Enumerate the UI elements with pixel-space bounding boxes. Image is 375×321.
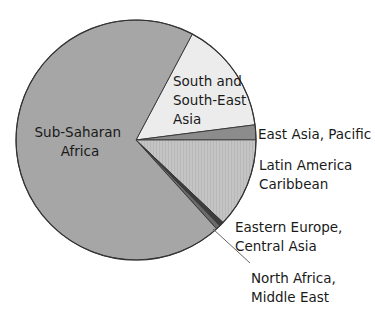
label-latin-america-caribbean: Latin America Caribbean (259, 157, 357, 192)
label-east-asia-pacific: East Asia, Pacific (258, 126, 371, 142)
label-eastern-europe-central-asia: Eastern Europe, Central Asia (235, 219, 347, 254)
label-north-africa-middle-east: North Africa, Middle East (251, 270, 340, 305)
pie-chart: Sub-Saharan Africa South and South-East … (0, 0, 375, 321)
pie-slices (16, 20, 256, 260)
